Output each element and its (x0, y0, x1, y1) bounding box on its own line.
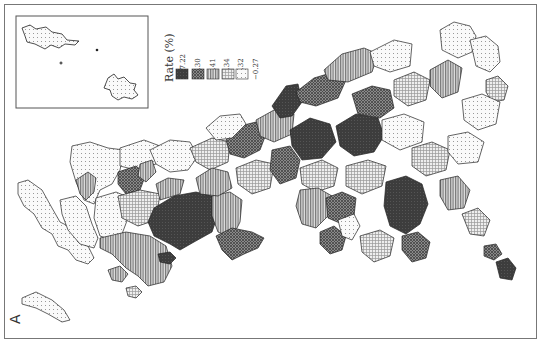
legend-swatch-class-3 (207, 69, 219, 79)
region (470, 36, 500, 72)
legend-swatches (176, 69, 248, 79)
region (196, 168, 232, 196)
region (462, 94, 500, 130)
region (272, 84, 302, 118)
inset-map (16, 16, 148, 108)
region (336, 114, 384, 156)
region (496, 258, 516, 280)
legend-swatch-class-2 (192, 69, 204, 79)
region (236, 160, 274, 194)
region (346, 160, 386, 194)
legend-title: Rate (%) (163, 33, 176, 82)
region (440, 176, 470, 210)
region (402, 232, 430, 262)
region (360, 230, 394, 262)
region (448, 132, 484, 164)
legend-swatch-class-4 (222, 69, 234, 79)
region (126, 286, 142, 298)
region (22, 292, 70, 322)
region (394, 72, 430, 106)
region (300, 160, 338, 192)
region (190, 138, 230, 170)
region (108, 266, 128, 282)
region (324, 48, 378, 82)
legend-swatch-class-1 (176, 69, 188, 79)
region (484, 244, 502, 260)
region (370, 40, 412, 72)
region (290, 118, 336, 160)
region (296, 188, 332, 228)
region (352, 86, 394, 118)
region (216, 228, 264, 260)
region (384, 176, 428, 234)
panel-label: A (7, 314, 23, 324)
legend-swatch-class-5 (236, 69, 248, 79)
region (270, 146, 300, 184)
region (382, 114, 424, 150)
region (412, 142, 450, 176)
choropleth-map: Rate (%) 17.22 6.30 4.41 3.34 2.32 −0.27 (0, 0, 542, 349)
region (430, 60, 462, 98)
region (158, 252, 176, 264)
region (462, 208, 490, 236)
legend-break-5: −0.27 (252, 59, 260, 80)
inset-islet (96, 49, 99, 52)
